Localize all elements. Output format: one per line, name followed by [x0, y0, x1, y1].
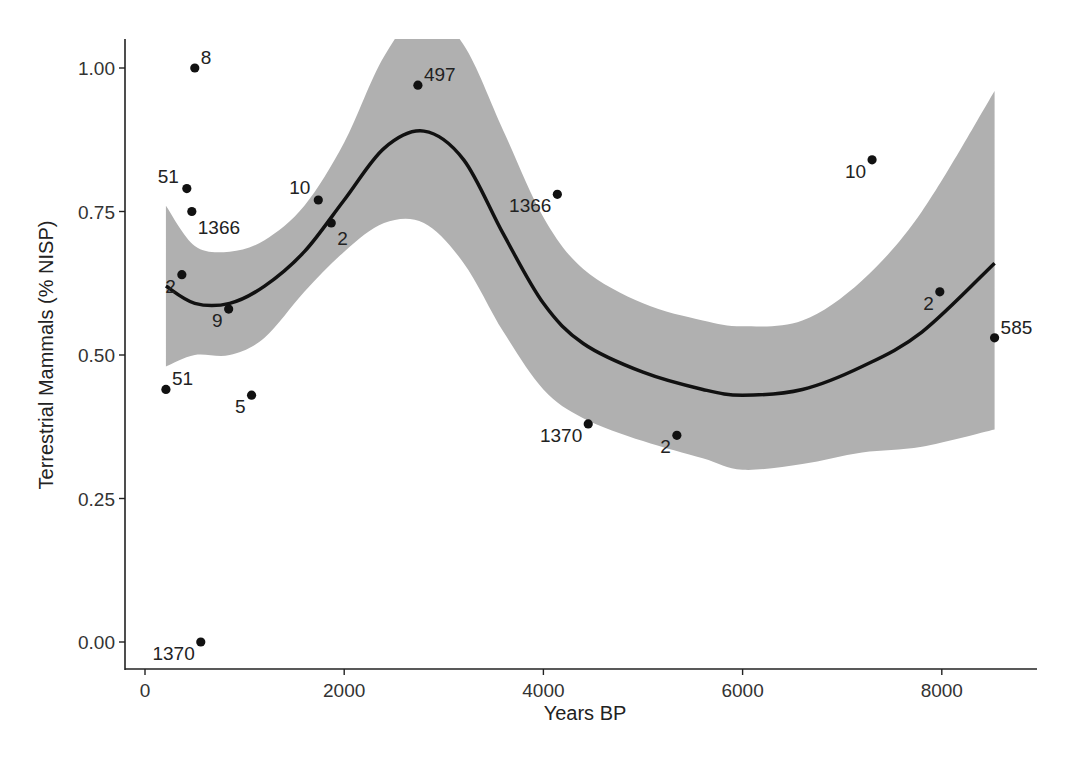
- data-point: [327, 218, 336, 227]
- confidence-band: [166, 10, 995, 470]
- data-point: [413, 81, 422, 90]
- data-point: [177, 270, 186, 279]
- point-label: 2: [337, 228, 348, 249]
- data-point: [584, 419, 593, 428]
- data-point: [672, 431, 681, 440]
- y-tick-label: 0.50: [78, 345, 115, 366]
- point-label: 2: [165, 276, 176, 297]
- data-point: [935, 287, 944, 296]
- point-label: 1366: [198, 217, 240, 238]
- y-tick-label: 0.25: [78, 489, 115, 510]
- data-point: [867, 155, 876, 164]
- data-point: [190, 63, 199, 72]
- data-point: [990, 333, 999, 342]
- point-label: 1370: [152, 643, 194, 664]
- x-tick-label: 0: [140, 680, 151, 701]
- point-label: 9: [212, 310, 223, 331]
- data-point: [247, 391, 256, 400]
- y-tick-label: 1.00: [78, 58, 115, 79]
- scatter-chart: 020004000600080000.000.250.500.751.00 85…: [0, 0, 1071, 763]
- point-label: 1370: [540, 425, 582, 446]
- data-point: [553, 190, 562, 199]
- point-label: 5: [235, 396, 246, 417]
- point-label: 10: [289, 177, 310, 198]
- point-label: 51: [172, 368, 193, 389]
- x-axis-title: Years BP: [544, 702, 627, 724]
- data-point: [196, 637, 205, 646]
- x-tick-label: 8000: [921, 680, 963, 701]
- data-point: [314, 195, 323, 204]
- y-tick-label: 0.75: [78, 202, 115, 223]
- data-point: [224, 304, 233, 313]
- point-label: 585: [1001, 317, 1033, 338]
- confidence-band-area: [166, 10, 995, 470]
- y-tick-label: 0.00: [78, 632, 115, 653]
- x-tick-label: 2000: [323, 680, 365, 701]
- data-point: [161, 385, 170, 394]
- point-label: 2: [923, 293, 934, 314]
- point-label: 2: [660, 436, 671, 457]
- point-label: 497: [424, 64, 456, 85]
- point-label: 10: [845, 161, 866, 182]
- x-tick-label: 4000: [522, 680, 564, 701]
- x-tick-label: 6000: [721, 680, 763, 701]
- data-point: [182, 184, 191, 193]
- data-point: [187, 207, 196, 216]
- point-label: 51: [158, 166, 179, 187]
- point-label: 8: [201, 47, 212, 68]
- point-label: 1366: [509, 195, 551, 216]
- y-axis-title: Terrestrial Mammals (% NISP): [35, 221, 57, 490]
